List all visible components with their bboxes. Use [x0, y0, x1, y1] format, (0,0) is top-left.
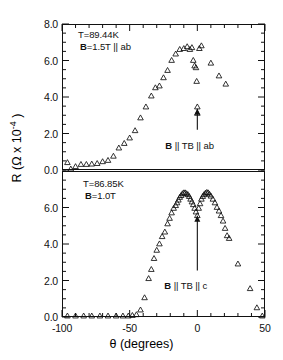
y-tick-label: 4.0	[24, 91, 58, 103]
annotation-temperature: T=89.44K	[78, 29, 119, 40]
data-point-marker	[216, 73, 222, 78]
data-point-marker	[100, 159, 106, 164]
data-point-marker	[149, 266, 155, 271]
data-point-marker	[127, 135, 133, 140]
data-point-marker	[162, 229, 168, 234]
y-tick-label: 0.0	[24, 311, 58, 323]
annotation-field: B=1.0T	[85, 190, 116, 201]
x-tick-label: -50	[100, 322, 160, 334]
data-point-marker	[165, 221, 171, 226]
data-point-marker	[132, 128, 138, 133]
data-point-marker	[81, 313, 87, 318]
data-point-marker	[169, 57, 175, 62]
data-point-marker	[195, 104, 201, 109]
data-point-marker	[142, 295, 148, 300]
data-point-marker	[89, 161, 95, 166]
annotation-arrow-label: B || TB || c	[164, 280, 207, 291]
data-point-marker	[220, 218, 226, 223]
annotation-field: B=1.5T || ab	[80, 41, 131, 52]
data-point-marker	[208, 60, 214, 65]
y-tick-label: 8.0	[24, 18, 58, 30]
y-tick-label: 6.0	[24, 202, 58, 214]
data-point-marker	[73, 164, 79, 169]
data-point-marker	[143, 104, 149, 109]
data-point-marker	[97, 313, 103, 318]
data-point-marker	[111, 153, 117, 158]
data-point-marker	[165, 67, 171, 72]
y-tick-label: 6.0	[24, 55, 58, 67]
data-point-marker	[190, 57, 196, 62]
data-point-marker	[157, 83, 163, 88]
data-point-marker	[138, 307, 144, 312]
data-point-marker	[247, 286, 253, 291]
x-tick-label: 0	[167, 322, 227, 334]
data-point-marker	[105, 157, 111, 162]
data-point-marker	[94, 161, 100, 166]
data-point-marker	[121, 140, 127, 145]
data-point-marker	[193, 65, 199, 70]
data-point-marker	[84, 161, 90, 166]
data-point-marker	[146, 276, 152, 281]
data-point-marker	[138, 115, 144, 120]
annotation-arrow-head	[194, 109, 200, 115]
data-point-marker	[120, 313, 126, 318]
annotation-temperature: T=86.85K	[83, 178, 124, 189]
data-point-marker	[161, 75, 167, 80]
data-point-marker	[89, 313, 95, 318]
data-point-marker	[134, 312, 140, 317]
data-point-marker	[154, 247, 160, 252]
data-point-marker	[235, 261, 241, 266]
figure-root: R (Ω x 10-4 ) θ (degrees) -100-500500.02…	[0, 0, 283, 360]
x-tick-label: 50	[235, 322, 283, 334]
y-tick-label: 4.0	[24, 238, 58, 250]
data-point-marker	[151, 256, 157, 261]
y-tick-label: 2.0	[24, 275, 58, 287]
data-point-marker	[149, 93, 155, 98]
data-point-marker	[254, 305, 260, 310]
annotation-arrow-label: B || TB || ab	[165, 140, 214, 151]
data-point-marker	[105, 313, 111, 318]
data-point-marker	[78, 161, 84, 166]
data-point-marker	[194, 78, 200, 83]
data-point-marker	[223, 81, 229, 86]
x-tick-label: -100	[32, 322, 92, 334]
data-point-marker	[222, 225, 228, 230]
y-tick-label: 2.0	[24, 128, 58, 140]
data-point-marker	[167, 215, 173, 220]
y-tick-label: 0.0	[24, 164, 58, 176]
data-point-marker	[157, 241, 163, 246]
